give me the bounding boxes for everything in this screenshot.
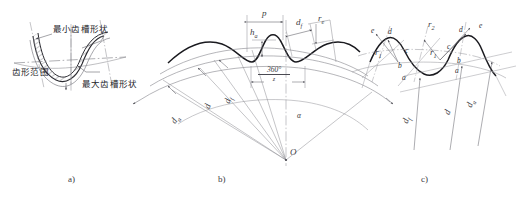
caption-panel-b: b): [218, 175, 226, 184]
angle-360-over-z: 360° z: [258, 66, 290, 82]
point-b-left: b: [398, 62, 402, 70]
point-a-right: a: [455, 67, 459, 75]
dimension-addendum-ha: ha: [250, 28, 258, 39]
dimension-edge-radius-re: re: [318, 14, 324, 25]
point-c-left: c: [405, 47, 408, 55]
radius-r2: r2: [428, 20, 435, 31]
point-e-left: e: [371, 27, 374, 35]
center-point-o: O: [290, 148, 297, 157]
point-a-left: a: [402, 74, 406, 82]
point-e-right: e: [479, 22, 482, 30]
radius-r1-right: r1: [430, 48, 437, 59]
caption-panel-a: a): [68, 175, 75, 184]
label-min-groove-shape: 最小齿槽形状: [53, 25, 108, 34]
point-b-right: b: [457, 57, 461, 65]
point-d-left: d: [388, 28, 392, 36]
panel-b-linework: [133, 15, 393, 166]
dimension-root-diameter-df-b: df: [296, 18, 302, 29]
point-d-right: d: [459, 26, 463, 34]
gear-tooth-profile-figure: 最小齿槽形状 齿形范围 最大齿槽形状 p ha df re 360° z α O…: [0, 0, 529, 205]
caption-panel-c: c): [421, 175, 428, 184]
label-max-groove-shape: 最大齿槽形状: [82, 80, 137, 89]
angle-alpha: α: [297, 112, 301, 120]
label-profile-range: 齿形范围: [12, 68, 49, 77]
radius-r1-left: r1: [375, 48, 382, 59]
point-c-right: c: [447, 43, 450, 51]
dimension-pitch-p: p: [262, 9, 267, 18]
panel-c-linework: [352, 22, 516, 150]
